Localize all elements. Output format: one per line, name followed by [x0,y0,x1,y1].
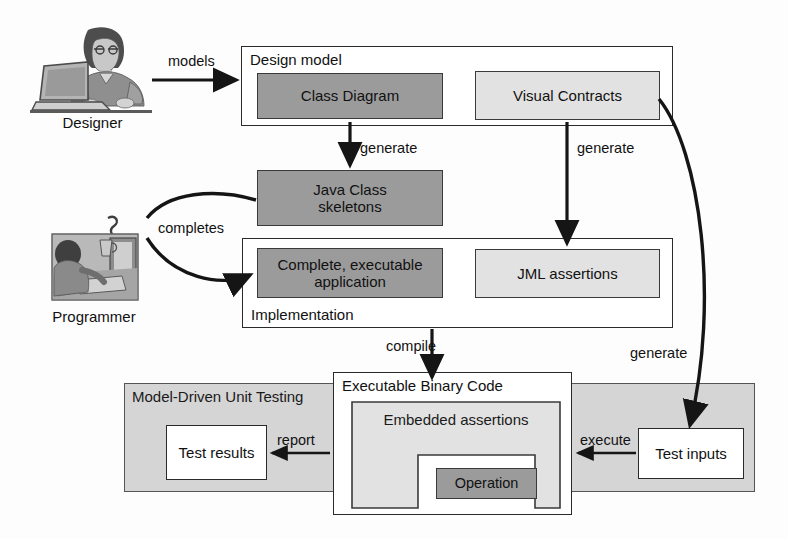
edge-label-generate-test-inputs: generate [630,345,687,361]
programmer-illustration: Programmer [30,212,158,327]
operation-label: Operation [455,475,519,492]
edge-completes-to-app [147,238,250,280]
visual-contracts-label: Visual Contracts [513,87,622,104]
complete-app-line1: Complete, executable [277,256,422,273]
programmer-caption: Programmer [30,308,158,325]
designer-caption: Designer [30,114,155,131]
test-inputs-label: Test inputs [655,445,727,462]
visual-contracts-box[interactable]: Visual Contracts [475,71,660,120]
complete-app-line2: application [314,273,386,290]
implementation-title: Implementation [251,306,354,323]
java-class-skeletons-box[interactable]: Java Class skeletons [257,170,443,226]
class-diagram-box[interactable]: Class Diagram [257,73,443,119]
edge-label-completes: completes [158,220,224,236]
design-model-title: Design model [250,51,342,68]
java-class-skeletons-line2: skeletons [318,198,381,215]
edge-label-report: report [277,432,315,448]
complete-executable-application-box[interactable]: Complete, executable application [257,248,443,298]
edge-label-models: models [168,53,215,69]
edge-label-generate-skeletons: generate [360,140,417,156]
test-inputs-box[interactable]: Test inputs [638,428,744,479]
test-results-label: Test results [179,444,255,461]
person-at-laptop-icon [30,22,155,117]
edge-label-compile: compile [386,338,436,354]
person-at-desktop-icon [30,212,158,312]
executable-binary-code-title: Executable Binary Code [342,377,503,394]
test-results-box[interactable]: Test results [166,425,267,480]
edge-label-generate-jml: generate [577,140,634,156]
diagram-canvas: Model-Driven Unit Testing Design model C… [0,0,788,539]
jml-assertions-box[interactable]: JML assertions [475,249,660,298]
class-diagram-label: Class Diagram [301,87,399,104]
embedded-assertions-label: Embedded assertions [352,411,560,428]
operation-box[interactable]: Operation [436,468,537,499]
edge-completes-from-skeletons [147,194,256,218]
mdut-title: Model-Driven Unit Testing [132,388,303,405]
jml-assertions-label: JML assertions [517,265,617,282]
java-class-skeletons-line1: Java Class [313,181,386,198]
designer-illustration: Designer [30,22,155,132]
edge-label-execute: execute [580,432,631,448]
